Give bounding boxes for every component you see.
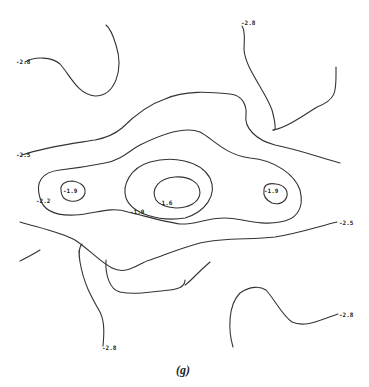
figure-caption: (g) bbox=[176, 363, 190, 378]
contour-line bbox=[106, 260, 185, 293]
contour-line bbox=[25, 25, 119, 96]
contour-label: -1.9 bbox=[130, 209, 144, 215]
contour-label: -2.5 bbox=[339, 220, 353, 226]
contour-plot bbox=[0, 0, 369, 387]
contour-line bbox=[242, 26, 336, 130]
contour-label: -1.9 bbox=[63, 188, 77, 194]
contour-line bbox=[230, 287, 338, 347]
contour-label: -2.2 bbox=[36, 198, 50, 204]
contour-line bbox=[20, 250, 40, 261]
contour-label: -1.6 bbox=[158, 200, 172, 206]
contour-label: -2.5 bbox=[16, 152, 30, 158]
contour-label: -1.9 bbox=[264, 188, 278, 194]
contour-line bbox=[22, 92, 340, 163]
contour-label: -2.8 bbox=[16, 59, 30, 65]
contour-line bbox=[185, 262, 210, 285]
contour-line bbox=[20, 222, 337, 270]
contour-label: -2.8 bbox=[241, 20, 255, 26]
contour-line bbox=[38, 130, 301, 224]
contour-label: -2.8 bbox=[102, 345, 116, 351]
contour-label: -2.8 bbox=[339, 312, 353, 318]
